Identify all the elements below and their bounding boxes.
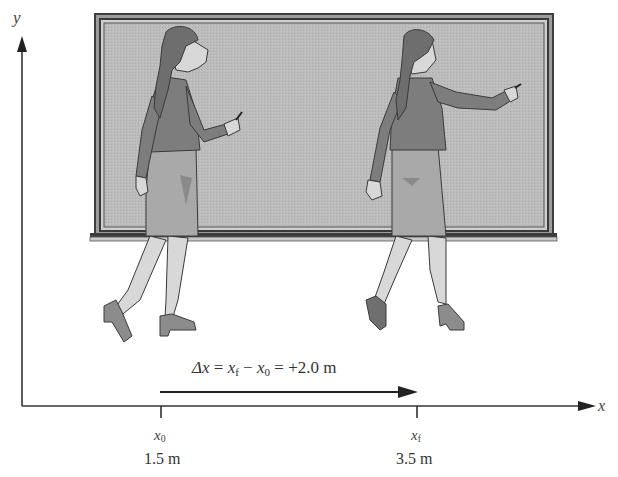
tick-label-xf-value: 3.5 m bbox=[396, 451, 432, 467]
tick-label-x0-value: 1.5 m bbox=[144, 451, 180, 467]
y-axis-label: y bbox=[13, 9, 21, 26]
final-position-symbol: xf bbox=[228, 358, 239, 377]
delta-x-symbol: Δx bbox=[192, 358, 210, 377]
y-axis bbox=[17, 36, 27, 406]
x-axis bbox=[22, 401, 596, 411]
displacement-arrow-head-icon bbox=[398, 386, 418, 398]
displacement-value: +2.0 m bbox=[288, 358, 336, 377]
displacement-equation: Δx = xf − x0 = +2.0 m bbox=[192, 359, 336, 378]
diagram-canvas bbox=[0, 0, 618, 477]
tick-label-xf-symbol: xf bbox=[411, 428, 421, 444]
minus-sign: − bbox=[243, 358, 253, 377]
y-axis-arrow-icon bbox=[17, 36, 27, 52]
x-axis-label: x bbox=[598, 398, 605, 414]
x-axis-arrow-icon bbox=[578, 401, 596, 411]
displacement-arrow bbox=[160, 386, 418, 398]
initial-position-symbol: x0 bbox=[257, 358, 270, 377]
equals-sign-2: = bbox=[274, 358, 284, 377]
tick-label-x0-symbol: x0 bbox=[154, 428, 166, 444]
equals-sign: = bbox=[214, 358, 224, 377]
